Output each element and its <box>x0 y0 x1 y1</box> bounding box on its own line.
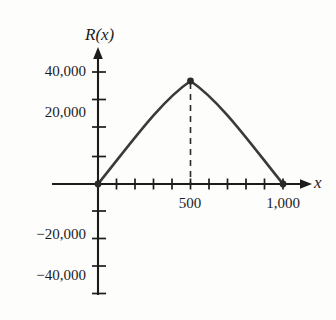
vertex-point <box>187 78 194 85</box>
y-tick-label-minus-40000: −40,000 <box>12 268 86 283</box>
x-axis <box>52 179 312 189</box>
revenue-parabola-chart: R(x) x 40,000 20,000 −20,000 −40,000 500… <box>0 0 336 320</box>
x-tick-label-1000: 1,000 <box>256 196 310 211</box>
y-axis-title: R(x) <box>85 26 114 43</box>
y-axis-arrowhead <box>93 47 103 59</box>
x-tick-label-500: 500 <box>170 196 210 211</box>
y-tick-label-minus-20000: −20,000 <box>12 227 86 242</box>
y-axis <box>93 47 103 295</box>
x-axis-arrowhead <box>300 179 312 189</box>
x-axis-title: x <box>314 174 322 191</box>
origin-point <box>95 181 102 188</box>
y-tick-label-20000: 20,000 <box>18 105 86 120</box>
root-point <box>280 181 287 188</box>
y-tick-label-40000: 40,000 <box>18 64 86 79</box>
